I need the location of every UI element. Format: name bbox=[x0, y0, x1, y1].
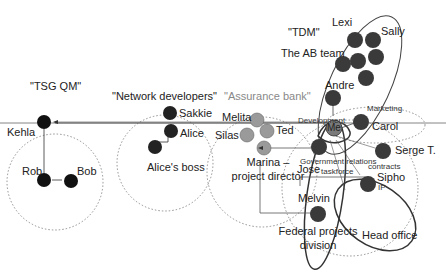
label-development: Development bbox=[298, 117, 345, 125]
label-contracts: contracts bbox=[368, 163, 400, 171]
lexi-node bbox=[347, 32, 363, 48]
label-andre: Andre bbox=[325, 80, 354, 91]
jose-node bbox=[311, 139, 327, 155]
label-alices-boss: Alice's boss bbox=[147, 162, 205, 173]
sakkie-node bbox=[163, 106, 177, 120]
label-serge: Serge T. bbox=[395, 145, 436, 156]
label-ab-team: The AB team bbox=[281, 48, 345, 59]
group-tsg-qm: "TSG QM" bbox=[30, 81, 81, 92]
label-taskforce: taskforce bbox=[321, 168, 353, 176]
ab-team-node-1 bbox=[368, 49, 384, 65]
alices-boss-node bbox=[148, 140, 162, 154]
melvin-node bbox=[310, 206, 326, 222]
kehla-node bbox=[37, 115, 51, 129]
label-ip: IP bbox=[378, 184, 386, 192]
label-melita: Melita bbox=[222, 112, 251, 123]
label-bob: Bob bbox=[77, 166, 97, 177]
ab-team-node-4 bbox=[358, 70, 374, 86]
label-rob: Rob bbox=[22, 166, 42, 177]
label-marketing: Marketing bbox=[367, 105, 402, 113]
label-federal-line2: division bbox=[268, 240, 368, 251]
bob-node bbox=[64, 174, 78, 188]
label-federal-projects: Federal projects division bbox=[268, 226, 368, 251]
label-kehla: Kehla bbox=[7, 127, 35, 138]
label-silas: Silas bbox=[215, 130, 239, 141]
label-sally: Sally bbox=[381, 26, 405, 37]
label-melvin: Melvin bbox=[298, 193, 330, 204]
tsg-qm-boundary bbox=[7, 134, 103, 230]
ted-node bbox=[260, 124, 274, 138]
label-alice: Alice bbox=[180, 128, 204, 139]
label-federal-line1: Federal projects bbox=[268, 226, 368, 237]
sally-node bbox=[365, 32, 381, 48]
label-lexi: Lexi bbox=[332, 17, 352, 28]
sipho-node bbox=[360, 176, 376, 192]
label-ted: Ted bbox=[276, 125, 294, 136]
label-sipho: Sipho bbox=[377, 172, 405, 183]
melita-node bbox=[250, 113, 264, 127]
label-gov-relations: Government relations bbox=[300, 158, 376, 166]
group-network-developers: "Network developers" bbox=[112, 91, 217, 102]
label-carol: Carol bbox=[372, 121, 398, 132]
group-tdm: "TDM" bbox=[288, 27, 320, 38]
serge-node bbox=[375, 143, 391, 159]
silas-node bbox=[240, 128, 254, 142]
ab-team-node-3 bbox=[350, 53, 366, 69]
label-head-office: Head office bbox=[362, 230, 417, 241]
alice-node bbox=[164, 124, 178, 138]
group-assurance-bank: "Assurance bank" bbox=[224, 91, 311, 102]
andre-node bbox=[325, 90, 341, 106]
carol-node bbox=[353, 114, 369, 130]
label-sakkie: Sakkie bbox=[179, 108, 212, 119]
